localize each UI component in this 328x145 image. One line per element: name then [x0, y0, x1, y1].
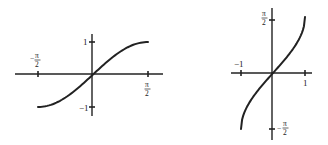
sine-label-neg-sign: − [30, 54, 34, 63]
sine-label-pos-den: 2 [145, 89, 149, 98]
sine-label-neg-one: −1 [79, 103, 89, 113]
arcsine-label-pos-num: π [262, 9, 266, 18]
arcsine-label-neg-num: π [283, 119, 287, 128]
sine-plot: − π 2 π 2 1 −1 [15, 34, 163, 116]
arcsine-label-neg-one: −1 [234, 59, 244, 69]
arcsine-label-neg-den: 2 [283, 128, 287, 137]
arcsine-label-neg-sign: − [277, 124, 281, 133]
sine-label-one: 1 [83, 37, 88, 47]
arcsine-plot: −1 1 π 2 − π 2 [231, 8, 312, 140]
sine-label-pos-num: π [145, 80, 149, 89]
figure-canvas: − π 2 π 2 1 −1 −1 1 π 2 − π 2 [0, 0, 328, 145]
arcsine-label-pos-den: 2 [262, 18, 266, 27]
arcsine-label-one: 1 [303, 78, 308, 88]
sine-label-neg-den: 2 [35, 60, 39, 69]
sine-label-neg-num: π [35, 51, 39, 60]
